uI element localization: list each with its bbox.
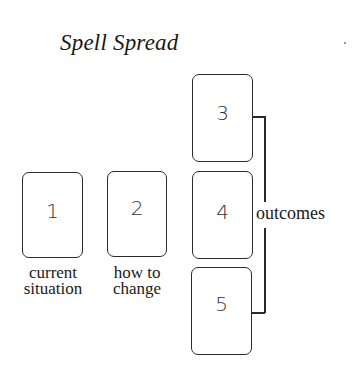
label-line: change bbox=[100, 281, 174, 297]
card-1: 1 bbox=[22, 172, 83, 258]
card-3: 3 bbox=[192, 74, 253, 162]
card-5: 5 bbox=[191, 267, 252, 355]
card-2: 2 bbox=[107, 171, 167, 257]
card-number: 3 bbox=[193, 101, 252, 125]
card-2-label: how to change bbox=[100, 265, 174, 297]
card-number: 2 bbox=[108, 196, 166, 220]
outcomes-label: outcomes bbox=[256, 203, 325, 224]
card-number: 4 bbox=[193, 200, 252, 224]
card-1-label: current situation bbox=[14, 265, 92, 297]
label-line: situation bbox=[14, 281, 92, 297]
stray-dot bbox=[344, 42, 346, 44]
card-number: 5 bbox=[192, 292, 251, 316]
bracket-upper-vertical bbox=[264, 116, 266, 202]
bracket-lower-vertical bbox=[264, 228, 266, 313]
bracket-bottom-arm bbox=[252, 312, 265, 314]
card-4: 4 bbox=[192, 171, 253, 259]
card-number: 1 bbox=[23, 199, 82, 223]
diagram-title: Spell Spread bbox=[60, 30, 178, 56]
